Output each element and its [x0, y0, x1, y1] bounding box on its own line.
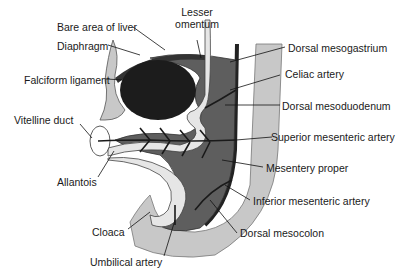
label-falciform-ligament: Falciform ligament	[24, 74, 110, 86]
label-celiac-artery: Celiac artery	[285, 68, 344, 80]
label-allantois: Allantois	[57, 176, 97, 188]
label-inferior-mesenteric-artery: Inferior mesenteric artery	[253, 195, 370, 207]
label-bare-area-of-liver: Bare area of liver	[57, 21, 137, 33]
liver	[120, 60, 196, 120]
label-lesser-omentum-line1: Lesser	[167, 6, 227, 18]
diagram-canvas: Bare area of liver Lesser omentum Diaphr…	[0, 0, 398, 276]
label-cloaca: Cloaca	[92, 226, 125, 238]
label-diaphragm: Diaphragm	[57, 40, 108, 52]
label-vitelline-duct: Vitelline duct	[14, 114, 73, 126]
label-mesentery-proper: Mesentery proper	[266, 162, 348, 174]
label-lesser-omentum-line2: omentum	[167, 18, 227, 30]
label-superior-mesenteric-artery: Superior mesenteric artery	[271, 131, 395, 143]
label-umbilical-artery: Umbilical artery	[90, 256, 162, 268]
label-dorsal-mesocolon: Dorsal mesocolon	[240, 227, 324, 239]
label-dorsal-mesoduodenum: Dorsal mesoduodenum	[282, 100, 391, 112]
label-dorsal-mesogastrium: Dorsal mesogastrium	[288, 42, 387, 54]
label-lesser-omentum: Lesser omentum	[167, 6, 227, 30]
